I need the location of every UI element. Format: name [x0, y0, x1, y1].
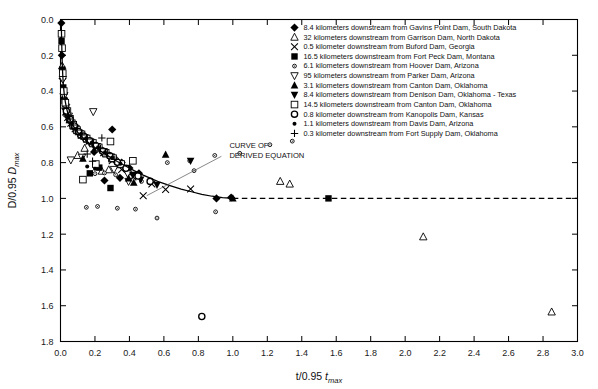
marker-dot [214, 155, 215, 156]
x-tick-label: 1.0 [227, 348, 240, 358]
legend: 8.4 kilometers downstream from Gavins Po… [290, 23, 517, 138]
legend-item-label: 3.1 kilometers downstream from Canton Da… [304, 81, 489, 90]
legend-item[interactable]: 16.5 kilometers downstream from Fort Pec… [291, 52, 495, 61]
legend-item[interactable]: 32 kilometers downstream from Garrison D… [291, 33, 501, 42]
marker-open-triangle-up [548, 308, 555, 315]
marker-open-circle [199, 313, 205, 319]
x-tick-label: 0.6 [158, 348, 171, 358]
marker-open-square [130, 158, 137, 165]
marker-open-triangle-up [277, 177, 284, 184]
legend-item[interactable]: 0.5 kilometer downstream from Buford Dam… [291, 42, 475, 51]
marker-open-square [80, 176, 87, 183]
marker-filled-square [107, 185, 113, 191]
x-tick-label: 0.4 [123, 348, 136, 358]
figure-container: 0.00.20.40.60.81.01.21.41.61.82.02.22.42… [0, 0, 598, 389]
marker-dot [97, 206, 98, 207]
x-tick-label: 1.6 [330, 348, 343, 358]
marker-open-triangle-down [67, 157, 74, 164]
y-tick-label: 0.2 [41, 51, 54, 61]
legend-item-label: 32 kilometers downstream from Garrison D… [304, 33, 501, 42]
marker-plus-cross [291, 130, 298, 137]
x-tick-label: 1.2 [261, 348, 274, 358]
marker-filled-diamond [100, 176, 108, 184]
marker-dot [156, 218, 157, 219]
marker-x-cross [140, 192, 147, 199]
y-tick-label: 1.8 [41, 337, 54, 347]
series-6 [62, 108, 237, 201]
y-tick-label: 1.4 [41, 265, 54, 275]
legend-item-label: 0.8 kilometer downstream from Kanopolis … [304, 110, 484, 119]
legend-item[interactable]: 6.1 kilometers downstream from Hoover Da… [293, 61, 480, 70]
legend-item-label: 8.4 kilometers downstream from Gavins Po… [304, 23, 518, 32]
marker-dot [292, 141, 293, 142]
legend-item[interactable]: 95 kilometers downstream from Parker Dam… [291, 71, 476, 80]
marker-dot [294, 66, 295, 67]
y-tick-label: 1.6 [41, 301, 54, 311]
y-tick-label: 0.4 [41, 86, 54, 96]
legend-item-label: 0.3 kilometer downstream from Fort Suppl… [304, 129, 499, 138]
x-tick-label: 2.6 [502, 348, 515, 358]
y-tick-label: 0.6 [41, 122, 54, 132]
marker-open-square [291, 101, 298, 108]
y-tick-label: 1.2 [41, 230, 54, 240]
marker-filled-triangle-up [162, 150, 170, 157]
marker-dot [215, 211, 216, 212]
marker-dot [167, 162, 168, 163]
marker-open-triangle-up [420, 233, 427, 240]
legend-item[interactable]: 14.5 kilometers downstream from Canton D… [291, 100, 492, 109]
legend-item-label: 95 kilometers downstream from Parker Dam… [304, 71, 476, 80]
series-3 [58, 38, 331, 202]
y-axis-title: D/0.95 Dmax [6, 152, 21, 208]
marker-filled-triangle-down [153, 182, 161, 189]
marker-filled-triangle-up [291, 81, 299, 88]
marker-filled-square [87, 170, 93, 176]
marker-dot [269, 144, 270, 145]
marker-dot [117, 208, 118, 209]
x-tick-label: 2.4 [468, 348, 481, 358]
marker-filled-diamond [108, 125, 116, 133]
marker-open-circle [291, 111, 297, 117]
marker-small-filled-circle [85, 165, 89, 169]
y-tick-label: 0.8 [41, 158, 54, 168]
series-0 [57, 19, 235, 203]
legend-item-label: 6.1 kilometers downstream from Hoover Da… [304, 61, 480, 70]
y-axis-title-group: D/0.95 Dmax [6, 152, 21, 208]
legend-item[interactable]: 8.4 kilometers downstream from Denison D… [291, 90, 517, 99]
marker-filled-diamond [290, 24, 298, 32]
legend-item[interactable]: 1.1 kilometers downstream from Davis Dam… [293, 119, 475, 128]
y-tick-label: 0.0 [41, 15, 54, 25]
annotation-line-1: CURVE OF [229, 141, 268, 150]
legend-item[interactable]: 8.4 kilometers downstream from Gavins Po… [290, 23, 517, 32]
marker-plus-cross [98, 134, 105, 141]
legend-item[interactable]: 3.1 kilometers downstream from Canton Da… [291, 81, 489, 90]
marker-small-filled-circle [293, 122, 297, 126]
marker-open-triangle-up [286, 180, 293, 187]
legend-item-label: 8.4 kilometers downstream from Denison D… [304, 90, 517, 99]
x-tick-label: 0.0 [54, 348, 67, 358]
annotation-line-2: DERIVED EQUATION [229, 151, 304, 160]
marker-small-filled-circle [93, 167, 97, 171]
y-tick-label: 1.0 [41, 194, 54, 204]
scatter-plot-svg: 0.00.20.40.60.81.01.21.41.61.82.02.22.42… [0, 0, 598, 389]
marker-dot [115, 174, 116, 175]
marker-open-triangle-down [291, 73, 298, 80]
marker-dot [86, 207, 87, 208]
legend-item-label: 0.5 kilometer downstream from Buford Dam… [304, 42, 476, 51]
marker-dot [135, 209, 136, 210]
x-axis-title: t/0.95 tmax [296, 370, 343, 385]
marker-filled-diamond [212, 194, 220, 202]
x-tick-label: 1.8 [364, 348, 377, 358]
legend-item[interactable]: 0.3 kilometer downstream from Fort Suppl… [291, 129, 499, 138]
x-tick-label: 1.4 [296, 348, 309, 358]
marker-dot [94, 173, 95, 174]
marker-open-square [107, 138, 114, 145]
legend-item[interactable]: 0.8 kilometer downstream from Kanopolis … [291, 110, 484, 119]
x-tick-label: 0.8 [192, 348, 205, 358]
marker-x-cross [291, 43, 298, 50]
x-tick-label: 0.2 [89, 348, 102, 358]
x-tick-label: 2.2 [433, 348, 446, 358]
marker-filled-triangle-down [291, 92, 299, 99]
x-tick-label: 2.0 [399, 348, 412, 358]
marker-open-square [93, 161, 100, 168]
marker-open-triangle-up [81, 144, 88, 151]
